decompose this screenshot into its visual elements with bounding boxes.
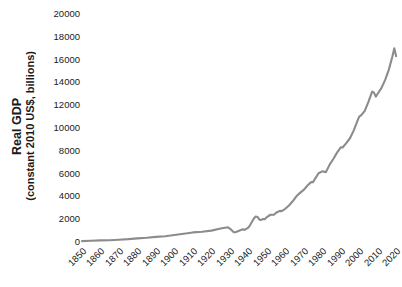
line-chart-svg (82, 14, 398, 242)
x-axis-tick-labels: 1850186018701880189019001910192019301940… (82, 244, 398, 287)
y-axis-tick-label: 16000 (54, 55, 80, 65)
plot-area (82, 14, 398, 242)
y-axis-tick-label: 20000 (54, 9, 80, 19)
y-axis-tick-labels: 0200040006000800010000120001400016000180… (44, 0, 80, 252)
data-series-real-gdp (82, 48, 396, 241)
chart-container: Real GDP (constant 2010 US$, billions) 0… (0, 0, 402, 287)
y-axis-title-line1: Real GDP (10, 98, 24, 155)
y-axis-tick-label: 8000 (59, 146, 80, 156)
y-axis-title: Real GDP (constant 2010 US$, billions) (0, 0, 46, 252)
y-axis-title-line2: (constant 2010 US$, billions) (24, 51, 36, 201)
y-axis-tick-label: 4000 (59, 191, 80, 201)
y-axis-tick-label: 6000 (59, 169, 80, 179)
y-axis-tick-label: 18000 (54, 32, 80, 42)
y-axis-tick-label: 14000 (54, 77, 80, 87)
y-axis-tick-label: 10000 (54, 123, 80, 133)
y-axis-tick-label: 12000 (54, 100, 80, 110)
y-axis-tick-label: 2000 (59, 214, 80, 224)
